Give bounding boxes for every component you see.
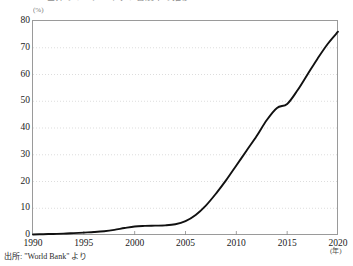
x-axis-tick-label: 2005 (166, 238, 206, 248)
x-axis-tick-label: 2010 (216, 238, 256, 248)
x-axis-tick-label: 2000 (115, 238, 155, 248)
x-axis-tick-label: 2015 (267, 238, 307, 248)
x-axis-tick-labels: 1990199520002005201020152020 (0, 0, 353, 266)
x-axis-tick-label: 1990 (13, 238, 53, 248)
source-note: 出所: "World Bank" より (4, 252, 87, 262)
x-axis-tick-label: 1995 (64, 238, 104, 248)
x-axis-tick-label: 2020 (318, 238, 353, 248)
